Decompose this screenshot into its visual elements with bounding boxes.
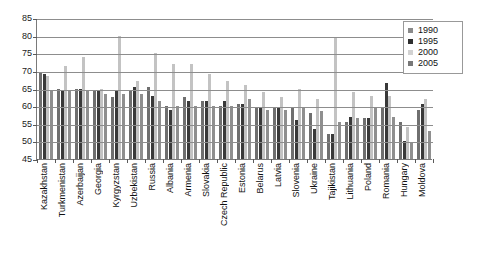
bar-group — [307, 18, 325, 159]
bar-group — [37, 18, 55, 159]
x-axis-label: Ukraine — [310, 163, 319, 194]
bar-group — [325, 18, 343, 159]
bar — [302, 108, 305, 159]
bar — [100, 89, 103, 160]
bar — [291, 108, 294, 159]
bar — [64, 66, 67, 159]
x-axis-label: Slovenia — [292, 163, 301, 198]
legend-swatch-1995 — [408, 39, 413, 44]
bar — [187, 101, 190, 159]
bar — [428, 131, 431, 159]
bar — [172, 64, 175, 159]
y-tick-label: 50 — [8, 137, 32, 146]
bar — [370, 96, 373, 159]
bar — [104, 94, 107, 159]
bar-group — [379, 18, 397, 159]
x-axis-label: Russia — [148, 163, 157, 191]
legend-label-2000: 2000 — [418, 48, 438, 57]
x-axis-category-labels: KazakhstanTurkmenistanAzerbaijanGeorgiaK… — [36, 163, 432, 255]
legend-swatch-2005 — [408, 61, 413, 66]
bar-group — [199, 18, 217, 159]
y-tick-label: 75 — [8, 49, 32, 58]
bar — [309, 113, 312, 159]
bar-group — [163, 18, 181, 159]
bar — [122, 94, 125, 159]
bar-group — [235, 18, 253, 159]
bar — [374, 108, 377, 159]
bar — [266, 110, 269, 159]
legend-item: 2005 — [408, 58, 458, 68]
bar — [417, 110, 420, 159]
bar — [201, 101, 204, 159]
bar — [147, 87, 150, 159]
bar — [273, 108, 276, 159]
y-tick-mark — [33, 90, 37, 91]
bar — [212, 106, 215, 159]
bar-group — [127, 18, 145, 159]
legend-label-1995: 1995 — [418, 37, 438, 46]
bar — [388, 96, 391, 159]
bar — [39, 73, 42, 159]
bar-group — [253, 18, 271, 159]
bar — [219, 106, 222, 159]
gridline — [37, 125, 433, 126]
gridline — [37, 72, 433, 73]
bar — [349, 117, 352, 159]
bar — [244, 85, 247, 159]
bar — [295, 120, 298, 159]
x-axis-label: Belarus — [256, 163, 265, 194]
bar — [79, 89, 82, 160]
bar — [136, 81, 139, 159]
plot-area — [36, 19, 432, 160]
y-tick-mark — [33, 37, 37, 38]
bar — [334, 37, 337, 159]
bar-group — [181, 18, 199, 159]
bar — [327, 134, 330, 159]
x-axis-label: Kyrgyzstan — [112, 163, 121, 208]
x-axis-label: Latvia — [274, 163, 283, 187]
bar-group — [55, 18, 73, 159]
bar-group — [361, 18, 379, 159]
gridline — [37, 107, 433, 108]
bar — [165, 106, 168, 159]
bar — [320, 111, 323, 159]
y-axis: 858075706560555045 — [0, 0, 32, 200]
x-tick-mark — [433, 159, 434, 163]
x-axis-label: Hungary — [400, 163, 409, 197]
bar — [421, 104, 424, 159]
bar — [410, 143, 413, 159]
bar-group — [217, 18, 235, 159]
bar-group — [145, 18, 163, 159]
bar — [392, 117, 395, 159]
bar — [208, 74, 211, 159]
x-axis-label: Poland — [364, 163, 373, 191]
x-axis-label: Georgia — [94, 163, 103, 195]
legend-item: 2000 — [408, 47, 458, 57]
bar — [194, 106, 197, 159]
bar-group — [73, 18, 91, 159]
y-tick-mark — [33, 107, 37, 108]
bar — [140, 94, 143, 159]
y-tick-label: 70 — [8, 67, 32, 76]
y-tick-mark — [33, 72, 37, 73]
x-axis-label: Czech Republic — [220, 163, 229, 226]
bar-group — [343, 18, 361, 159]
bar — [75, 89, 78, 160]
x-axis-label: Kazakhstan — [40, 163, 49, 210]
legend-swatch-1990 — [408, 28, 413, 33]
y-tick-mark — [33, 54, 37, 55]
bar — [255, 108, 258, 159]
x-axis-label: Uzbekistan — [130, 163, 139, 208]
bar — [277, 108, 280, 159]
x-axis-label: Estonia — [238, 163, 247, 193]
bar-group — [289, 18, 307, 159]
bar — [176, 106, 179, 159]
bar — [223, 101, 226, 159]
y-tick-mark — [33, 160, 37, 161]
x-axis-label: Romania — [382, 163, 391, 199]
bar — [151, 96, 154, 159]
gridline — [37, 142, 433, 143]
gridline — [37, 37, 433, 38]
bar — [331, 134, 334, 159]
x-axis-label: Azerbaijan — [76, 163, 85, 206]
